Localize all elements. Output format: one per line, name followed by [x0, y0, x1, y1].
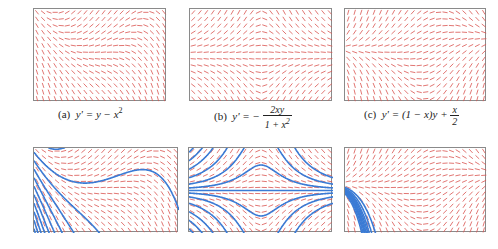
caption-c-num: x [450, 104, 459, 116]
slope-segment [328, 90, 332, 94]
slope-segment [210, 210, 214, 213]
slope-segment [230, 37, 234, 40]
solution-curves-a [33, 147, 178, 232]
slope-segment [88, 199, 93, 201]
slope-segment [443, 51, 448, 54]
slope-segment [354, 149, 356, 154]
slope-segment [468, 38, 473, 39]
slope-segment [379, 23, 382, 27]
slope-segment [204, 24, 208, 28]
slope-segment [55, 180, 59, 183]
slope-segment [163, 76, 165, 81]
slope-segment [156, 17, 160, 21]
slope-segment [411, 168, 415, 171]
slope-segment [282, 45, 287, 47]
slope-segment [140, 181, 145, 183]
slope-segment [327, 45, 332, 46]
slope-segment [385, 58, 390, 60]
slope-segment [101, 174, 106, 176]
slope-segment [392, 210, 396, 214]
slope-segment [483, 70, 485, 75]
slope-segment [77, 71, 81, 74]
slope-segment [54, 63, 57, 67]
slope-segment [360, 63, 363, 67]
slope-segment [36, 37, 38, 42]
slope-segment [161, 185, 164, 189]
slope-segment [217, 77, 221, 80]
slope-segment [391, 204, 395, 207]
slope-segment [436, 71, 440, 74]
slope-segment [385, 37, 389, 40]
slope-segment [269, 52, 274, 53]
slope-segment [348, 83, 349, 88]
slope-segment [308, 52, 313, 53]
slope-segment [102, 84, 106, 87]
slope-segment [373, 90, 375, 95]
slope-segment [269, 216, 273, 219]
slope-segment [367, 76, 369, 81]
slope-segment [66, 90, 69, 95]
slope-segment [119, 52, 124, 53]
slope-segment [327, 181, 332, 182]
slope-segment [457, 228, 459, 233]
slope-segment [296, 17, 299, 21]
slope-segment [96, 84, 100, 87]
slope-segment [132, 77, 135, 81]
slope-segment [244, 90, 247, 94]
slope-segment [410, 217, 415, 219]
slope-segment [417, 91, 422, 92]
slope-segment [372, 37, 376, 40]
slope-segment [101, 155, 105, 159]
slope-segment [476, 197, 479, 201]
slope-segment [126, 64, 130, 67]
slope-segment [101, 199, 106, 200]
slope-segment [430, 156, 435, 158]
slope-segment [256, 45, 261, 46]
slope-segment [157, 50, 159, 55]
slope-segment [469, 24, 474, 26]
slope-segment [430, 199, 435, 201]
slope-segment [262, 45, 267, 46]
slope-segment [231, 90, 234, 94]
slope-segment [449, 150, 454, 152]
slope-segment [481, 44, 486, 46]
slope-segment [398, 210, 402, 213]
slope-segment [430, 91, 435, 93]
slope-segment [282, 161, 285, 165]
slope-segment [107, 58, 112, 59]
slope-segment [430, 31, 435, 33]
slope-segment [469, 198, 472, 202]
slope-segment [380, 228, 382, 233]
slope-segment [321, 155, 325, 159]
slope-segment [163, 96, 164, 101]
slope-segment [328, 97, 331, 101]
slope-segment [127, 156, 131, 159]
slope-segment [308, 59, 313, 60]
slope-segment [218, 96, 221, 100]
slope-segment [475, 155, 479, 159]
slope-segment [392, 10, 394, 15]
slope-segment [315, 10, 318, 14]
slope-segment [167, 167, 170, 171]
slope-segment [42, 56, 44, 61]
slope-segment [59, 19, 64, 20]
slope-segment [276, 17, 279, 21]
slope-segment [360, 90, 361, 95]
slope-segment [108, 222, 112, 226]
slope-segment [145, 76, 147, 81]
slope-segment [223, 222, 226, 226]
slope-segment [61, 169, 66, 170]
slope-segment [231, 83, 234, 87]
slope-segment [230, 149, 233, 153]
slope-segment [398, 222, 401, 226]
slope-segment [430, 71, 435, 73]
slope-segment [167, 155, 171, 158]
slope-segment [89, 31, 93, 34]
slope-segment [209, 187, 214, 188]
slope-segment [405, 10, 408, 14]
slope-segment [126, 90, 129, 94]
slope-segment [120, 90, 123, 94]
slope-segment [102, 90, 105, 94]
slope-segment [436, 204, 440, 207]
slope-segment [145, 83, 147, 88]
